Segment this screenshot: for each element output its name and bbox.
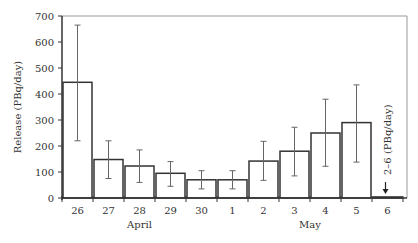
x-tick-label: 5	[353, 205, 359, 216]
month-label: May	[299, 219, 321, 230]
y-tick-label: 200	[35, 141, 54, 152]
y-tick-label: 600	[35, 37, 54, 48]
y-tick-label: 700	[35, 11, 54, 22]
x-axis: 2627282930123456AprilMay	[62, 196, 407, 230]
y-axis: 0100200300400500600700	[35, 11, 62, 204]
annotation: 2–6 (PBq/day)	[382, 104, 393, 194]
y-tick-label: 400	[35, 89, 54, 100]
bar-chart: 0100200300400500600700 2627282930123456A…	[0, 0, 418, 243]
x-tick-label: 27	[102, 205, 115, 216]
x-tick-label: 4	[322, 205, 328, 216]
y-axis-title: Release (PBq/day)	[12, 61, 23, 154]
x-tick-label: 29	[164, 205, 177, 216]
x-tick-label: 2	[260, 205, 266, 216]
x-tick-label: 26	[71, 205, 84, 216]
x-tick-label: 28	[133, 205, 146, 216]
x-tick-label: 6	[384, 205, 390, 216]
annotation-text: 2–6 (PBq/day)	[382, 104, 393, 175]
x-tick-label: 3	[291, 205, 297, 216]
y-tick-label: 300	[35, 115, 54, 126]
y-tick-label: 100	[35, 167, 54, 178]
y-tick-label: 500	[35, 63, 54, 74]
x-tick-label: 30	[195, 205, 208, 216]
y-tick-label: 0	[48, 193, 54, 204]
month-label: April	[126, 219, 152, 230]
x-tick-label: 1	[229, 205, 235, 216]
